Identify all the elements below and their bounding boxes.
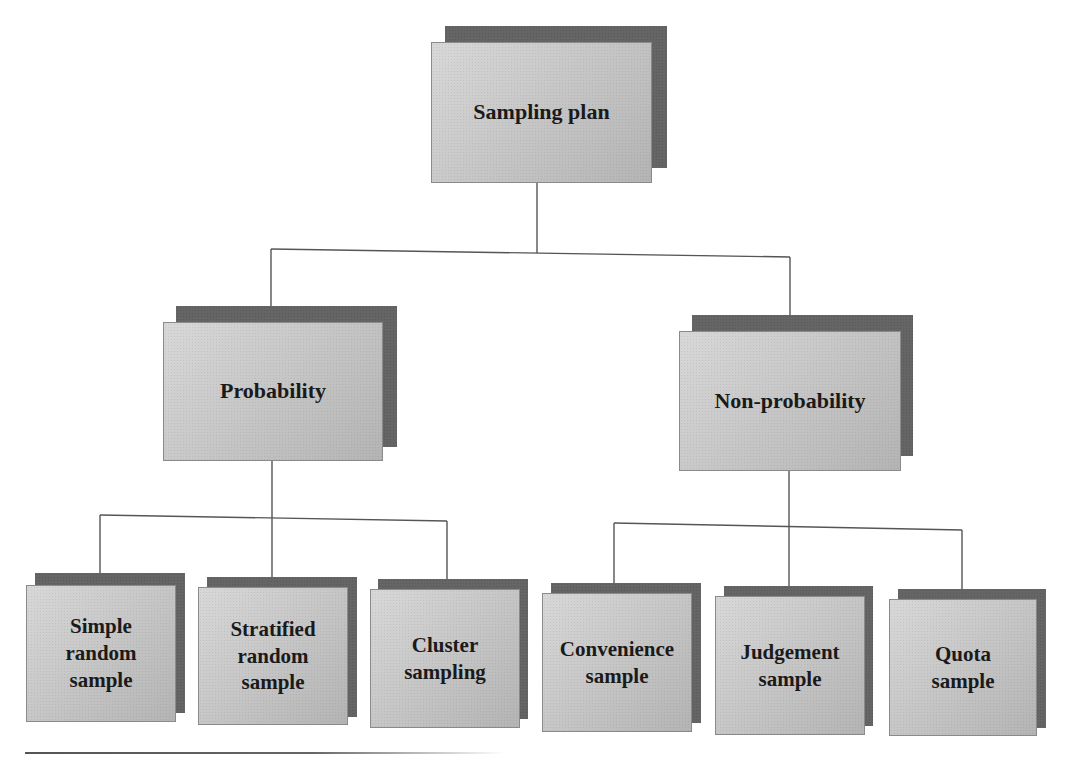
bottom-rule bbox=[25, 752, 505, 754]
node-label: Probability bbox=[220, 377, 326, 405]
box: Non-probability bbox=[679, 331, 901, 471]
box: Simple random sample bbox=[26, 585, 176, 722]
node-label: Non-probability bbox=[714, 387, 865, 415]
box: Probability bbox=[163, 322, 383, 461]
box: Stratified random sample bbox=[198, 587, 348, 725]
node-label: Sampling plan bbox=[473, 98, 609, 126]
node-label: Cluster sampling bbox=[404, 632, 486, 686]
node-label: Simple random sample bbox=[65, 613, 136, 694]
node-label: Judgement sample bbox=[740, 639, 839, 693]
node-label: Quota sample bbox=[932, 641, 995, 695]
box: Judgement sample bbox=[715, 596, 865, 735]
node-label: Stratified random sample bbox=[230, 616, 315, 697]
box: Sampling plan bbox=[431, 42, 652, 183]
box: Quota sample bbox=[889, 599, 1037, 736]
box: Cluster sampling bbox=[370, 589, 520, 728]
box: Convenience sample bbox=[542, 593, 692, 732]
node-label: Convenience sample bbox=[560, 636, 674, 690]
